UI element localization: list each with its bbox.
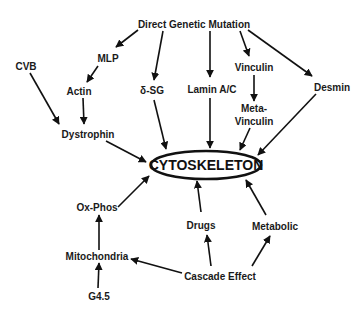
node-mitochondria: Mitochondria: [66, 251, 129, 262]
edge-dgm-dsg: [154, 31, 163, 80]
node-vinculin: Vinculin: [235, 62, 274, 73]
edge-g45-mito: [98, 263, 99, 288]
node-mlp: MLP: [97, 53, 118, 64]
node-g45: G4.5: [88, 291, 110, 302]
node-direct-genetic-mutation: Direct Genetic Mutation: [138, 19, 250, 30]
node-dystrophin: Dystrophin: [62, 129, 115, 140]
edge-dgm-vinculin: [240, 31, 249, 56]
edge-dystrophin-core: [106, 141, 146, 162]
edge-metabolic-core: [246, 180, 266, 215]
edge-oxphos-core: [118, 176, 149, 207]
node-delta-sg: δ-SG: [140, 85, 164, 96]
node-metabolic: Metabolic: [252, 221, 299, 232]
node-desmin: Desmin: [314, 82, 350, 93]
edge-cascade-metabolic: [252, 236, 270, 266]
node-cascade-effect: Cascade Effect: [184, 271, 256, 282]
cytoskeleton-label: CYTOSKELETON: [149, 157, 264, 173]
edge-actin-dystrophin: [83, 98, 84, 124]
node-lamin-ac: Lamin A/C: [187, 84, 236, 95]
edge-cascade-drugs: [207, 235, 211, 266]
node-drugs: Drugs: [187, 220, 216, 231]
edge-cvb-dystrophin: [30, 73, 59, 124]
node-meta-vinculin-line2: Vinculin: [235, 116, 274, 127]
node-cvb: CVB: [15, 61, 36, 72]
edge-dgm-mlp: [116, 30, 138, 47]
node-meta-vinculin-line1: Meta-: [241, 103, 267, 114]
node-actin: Actin: [67, 86, 92, 97]
edge-metavinculin-core: [240, 128, 250, 150]
edge-cascade-mito: [131, 259, 182, 273]
edge-mlp-actin: [87, 66, 98, 82]
node-ox-phos: Ox-Phos: [76, 202, 118, 213]
edge-dsg-core: [154, 100, 166, 149]
diagram-canvas: CYTOSKELETON Direct Genetic Mutation MLP…: [0, 0, 358, 317]
edge-drugs-core: [197, 181, 201, 212]
